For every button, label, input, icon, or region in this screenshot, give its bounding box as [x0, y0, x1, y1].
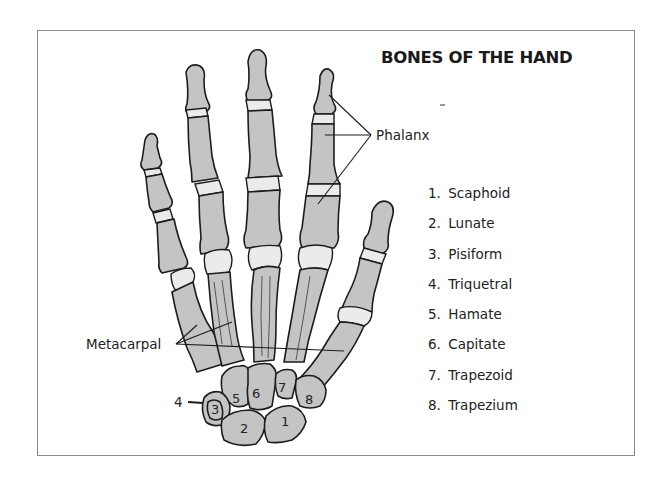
middle-distal-phalanx: [246, 50, 272, 101]
legend-item: 5. Hamate: [428, 306, 518, 336]
index-middle-phalanx: [308, 124, 340, 184]
pinky-proximal-phalanx: [157, 219, 188, 273]
triquetral-pointer: [188, 402, 203, 403]
index-finger: [284, 69, 340, 362]
carpal-number-6: 6: [252, 386, 260, 401]
carpal-number-5: 5: [232, 391, 240, 406]
carpal-number-3: 3: [211, 402, 219, 417]
hand-skeleton-illustration: 1 2 3 5 6 7 8: [0, 0, 665, 488]
legend-item: 8. Trapezium: [428, 397, 518, 427]
carpal-number-2: 2: [240, 421, 248, 436]
metacarpal-label: Metacarpal: [86, 336, 161, 352]
diagram-title: BONES OF THE HAND: [381, 48, 572, 67]
legend-item: 4. Triquetral: [428, 276, 518, 306]
pinky-distal-phalanx: [141, 134, 162, 170]
middle-finger: [244, 50, 282, 362]
carpal-number-1: 1: [281, 414, 289, 429]
thumb-distal-phalanx: [364, 201, 394, 254]
carpal-legend: 1. Scaphoid 2. Lunate 3. Pisiform 4. Tri…: [428, 185, 518, 427]
legend-item: 2. Lunate: [428, 215, 518, 245]
middle-middle-phalanx: [248, 110, 282, 178]
carpal-number-8: 8: [305, 392, 313, 407]
ring-proximal-phalanx: [199, 192, 229, 254]
phalanx-leader-distal: [329, 95, 371, 135]
legend-item: 1. Scaphoid: [428, 185, 518, 215]
triquetral-number-label: 4: [174, 394, 183, 410]
middle-proximal-phalanx: [244, 190, 282, 248]
stray-mark: [440, 104, 445, 106]
legend-item: 3. Pisiform: [428, 246, 518, 276]
thumb-proximal-phalanx: [342, 258, 382, 312]
index-distal-phalanx: [314, 69, 336, 114]
ring-distal-phalanx: [186, 65, 210, 114]
index-metacarpal: [284, 268, 328, 362]
pinky-middle-phalanx: [146, 174, 172, 212]
phalanx-label: Phalanx: [376, 127, 430, 143]
ring-middle-phalanx: [188, 116, 218, 182]
legend-item: 7. Trapezoid: [428, 367, 518, 397]
carpal-number-7: 7: [278, 380, 286, 395]
legend-item: 6. Capitate: [428, 336, 518, 366]
index-proximal-phalanx: [300, 196, 340, 248]
